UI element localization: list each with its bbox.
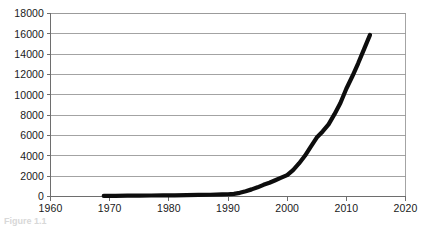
y-tick-label: 4000 [20,150,44,162]
x-tick-label: 2010 [334,202,358,214]
x-tick-label: 1960 [39,202,63,214]
y-tick-label: 8000 [20,109,44,121]
x-tick-label: 1980 [157,202,181,214]
y-tick-label: 18000 [14,7,44,19]
line-chart: 0200040006000800010000120001400016000180… [0,0,433,227]
y-tick-label: 0 [38,190,44,202]
figure-caption: Figure 1.1 [4,214,47,227]
x-tick-label: 1990 [216,202,240,214]
y-tick-label: 6000 [20,129,44,141]
y-tick-label: 16000 [14,28,44,40]
figure-container: 0200040006000800010000120001400016000180… [0,0,433,227]
x-tick-label: 1970 [98,202,122,214]
y-tick-label: 14000 [14,48,44,60]
y-tick-label: 10000 [14,89,44,101]
x-tick-label: 2000 [275,202,299,214]
y-tick-label: 12000 [14,68,44,80]
x-tick-label: 2020 [394,202,418,214]
y-tick-label: 2000 [20,170,44,182]
